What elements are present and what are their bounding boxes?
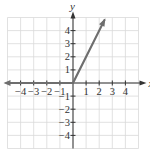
y-axis-label: y xyxy=(69,0,75,12)
svg-text:−2: −2 xyxy=(59,104,70,115)
svg-text:−4: −4 xyxy=(15,86,27,97)
svg-text:3: 3 xyxy=(65,38,70,49)
function-curve xyxy=(4,18,106,86)
svg-text:−4: −4 xyxy=(59,130,71,141)
svg-text:1: 1 xyxy=(83,86,88,97)
svg-text:−1: −1 xyxy=(59,91,70,102)
svg-text:2: 2 xyxy=(65,51,70,62)
svg-text:4: 4 xyxy=(65,25,71,36)
svg-text:4: 4 xyxy=(123,86,129,97)
svg-text:1: 1 xyxy=(65,64,70,75)
svg-text:2: 2 xyxy=(97,86,102,97)
svg-text:−2: −2 xyxy=(41,86,52,97)
x-axis-label: x xyxy=(148,77,151,89)
svg-text:3: 3 xyxy=(110,86,115,97)
svg-text:−3: −3 xyxy=(59,117,70,128)
function-graph: −4−3−2−11234−4−3−2−11234 x y xyxy=(0,0,150,159)
svg-text:−3: −3 xyxy=(28,86,39,97)
